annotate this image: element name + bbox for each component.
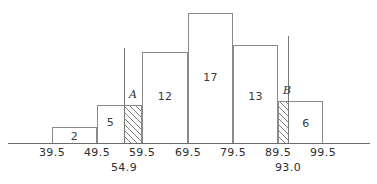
x-axis-line [8,143,370,144]
x-tick-label-6: 99.5 [303,146,343,159]
bar-value-label-1: 2 [52,131,97,142]
region-label-b: B [278,85,296,96]
x-tick-label-3: 69.5 [168,146,208,159]
region-label-a: A [124,89,142,100]
bar-value-label-3: 12 [142,91,188,102]
shaded-region-a [124,105,142,144]
x-tick-label-5: 89.5 [258,146,298,159]
x-tick-label-0: 39.5 [32,146,72,159]
marker-value-label-left: 54.9 [104,161,144,174]
bar-value-label-2: 5 [97,117,124,128]
bar-value-label-5: 13 [233,91,278,102]
bar-value-label-6: 6 [289,118,323,129]
histogram-figure: 2 5 12 17 13 6 A B 39.5 49.5 59.5 69.5 7… [0,0,377,184]
x-tick-label-2: 59.5 [122,146,162,159]
marker-value-label-right: 93.0 [268,161,308,174]
x-tick-label-1: 49.5 [77,146,117,159]
bar-value-label-4: 17 [188,72,233,83]
x-tick-label-4: 79.5 [213,146,253,159]
